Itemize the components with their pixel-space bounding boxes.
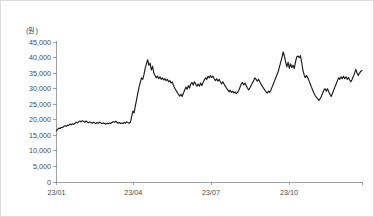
y-axis-unit-label-group: (원) bbox=[26, 26, 38, 35]
y-axis-tick-label: 40,000 bbox=[29, 53, 51, 62]
x-axis: 23/0123/0423/0723/10 bbox=[48, 182, 363, 197]
y-axis-tick-label: 0 bbox=[47, 178, 51, 187]
y-axis-tick-label: 20,000 bbox=[29, 115, 51, 124]
y-axis-tick-label: 45,000 bbox=[29, 38, 51, 47]
chart-canvas: (원) 05,00010,00015,00020,00025,00030,000… bbox=[1, 1, 374, 217]
data-series-group bbox=[57, 52, 363, 131]
x-axis-tick-label: 23/01 bbox=[48, 188, 66, 197]
y-axis-unit-label: (원) bbox=[26, 26, 38, 35]
x-axis-tick-label: 23/04 bbox=[124, 188, 142, 197]
stock-price-chart-figure: (원) 05,00010,00015,00020,00025,00030,000… bbox=[0, 0, 374, 217]
y-axis-tick-label: 5,000 bbox=[33, 162, 51, 171]
price-line-series bbox=[57, 52, 363, 131]
y-axis-tick-label: 25,000 bbox=[29, 100, 51, 109]
y-axis-tick-label: 35,000 bbox=[29, 69, 51, 78]
x-axis-tick-label: 23/10 bbox=[280, 188, 298, 197]
y-axis: 05,00010,00015,00020,00025,00030,00035,0… bbox=[29, 38, 56, 187]
y-axis-tick-label: 30,000 bbox=[29, 84, 51, 93]
y-axis-tick-label: 10,000 bbox=[29, 146, 51, 155]
x-axis-tick-label: 23/07 bbox=[202, 188, 220, 197]
y-axis-tick-label: 15,000 bbox=[29, 131, 51, 140]
